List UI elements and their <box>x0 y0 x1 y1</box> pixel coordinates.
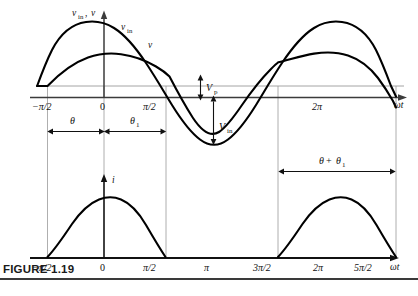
top-y-axis-label: v in , v <box>72 8 96 20</box>
vin-arrow-up <box>211 96 217 102</box>
vp-label: V p <box>206 82 218 96</box>
theta-sum-label: θ + θ 1 <box>319 155 346 169</box>
theta-label: θ <box>70 115 75 126</box>
svg-text:v: v <box>72 8 77 18</box>
caption-divider <box>0 278 418 280</box>
top-tick-neg-half-pi: −π/2 <box>32 101 52 112</box>
svg-text:V: V <box>206 82 214 93</box>
top-tick-two-pi: 2π <box>312 101 323 112</box>
top-plot <box>30 11 407 175</box>
vp-arrow-up <box>198 75 204 81</box>
svg-text:1: 1 <box>342 161 346 169</box>
theta1-arrow-left <box>104 129 110 135</box>
figure-container: v in , v v in v V p V in θ θ 1 <box>0 0 418 296</box>
svg-text:θ: θ <box>336 155 341 166</box>
vin-label: V in <box>219 121 233 135</box>
svg-text:v: v <box>121 22 126 32</box>
svg-text:+: + <box>326 155 332 166</box>
top-tick-zero: 0 <box>100 101 105 112</box>
bottom-y-axis-arrow <box>101 174 107 182</box>
theta1-label: θ 1 <box>130 115 140 129</box>
v-curve-label: v <box>148 40 153 50</box>
current-pulse-2 <box>278 197 396 257</box>
top-x-axis-label: ωt <box>394 100 404 110</box>
svg-text:in: in <box>78 13 84 20</box>
theta-sum-arrow-left <box>278 169 284 175</box>
bottom-y-axis-label: i <box>112 175 115 185</box>
figure-caption: FIGURE 1.19 <box>0 262 418 276</box>
waveform-diagram: v in , v v in v V p V in θ θ 1 <box>0 0 418 296</box>
svg-text:1: 1 <box>136 121 140 129</box>
svg-text:in: in <box>227 127 233 135</box>
vin-curve <box>37 22 396 145</box>
svg-text:θ: θ <box>130 115 135 126</box>
svg-text:,: , <box>85 8 87 18</box>
vin-curve-label: v in <box>121 22 133 34</box>
bottom-plot <box>30 174 399 261</box>
svg-text:ωt: ωt <box>394 100 404 110</box>
current-pulse-1 <box>48 197 166 257</box>
theta1-arrow-right <box>161 129 167 135</box>
theta-sum-arrow-right <box>390 169 396 175</box>
svg-text:in: in <box>127 27 133 34</box>
theta-arrow-left <box>47 129 53 135</box>
svg-text:v: v <box>91 8 96 18</box>
svg-text:θ: θ <box>319 155 324 166</box>
top-tick-half-pi: π/2 <box>143 101 156 112</box>
figure-caption-block: FIGURE 1.19 <box>0 262 418 280</box>
svg-text:p: p <box>214 88 218 96</box>
top-y-axis-arrow <box>101 11 107 20</box>
